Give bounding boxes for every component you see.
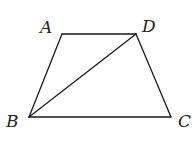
- vertex-label-a: A: [38, 17, 52, 37]
- edge-dc: [136, 34, 171, 117]
- vertex-label-c: C: [178, 111, 191, 131]
- trapezoid-diagram: A D B C: [0, 0, 192, 163]
- vertex-label-b: B: [5, 111, 19, 131]
- vertex-label-d: D: [141, 16, 156, 36]
- edges: [29, 34, 171, 117]
